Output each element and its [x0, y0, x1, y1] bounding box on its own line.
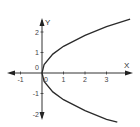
x-axis-label: X: [124, 61, 130, 70]
y-axis-label: Y: [45, 18, 51, 27]
y-tick-label: 1: [35, 49, 39, 56]
y-axis-down-arrow-icon: [40, 112, 45, 120]
y-tick-label: -2: [33, 111, 39, 118]
x-tick-label: 3: [105, 76, 109, 83]
x-axis: [7, 71, 133, 76]
y-tick-label: 2: [35, 29, 39, 36]
curve-line: [42, 19, 130, 122]
origin-y-label: 0: [35, 64, 39, 71]
x-tick-label: 1: [62, 76, 66, 83]
y-tick-label: -1: [33, 90, 39, 97]
x-axis-right-arrow-icon: [125, 71, 133, 76]
x-tick-label: -1: [17, 76, 23, 83]
x-axis-left-arrow-icon: [7, 71, 15, 76]
y-axis-up-arrow-icon: [40, 18, 45, 26]
parabola-chart: -112321-1-200 X Y: [0, 0, 140, 127]
y-axis: [40, 18, 45, 120]
x-tick-label: 2: [83, 76, 87, 83]
